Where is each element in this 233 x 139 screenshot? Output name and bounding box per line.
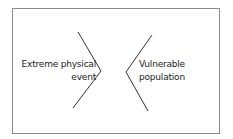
- right-label-line2: population: [139, 71, 185, 84]
- left-label-line2: event: [18, 71, 96, 84]
- vulnerable-population-label: Vulnerable population: [139, 58, 185, 84]
- left-label-line1: Extreme physical: [18, 58, 96, 71]
- extreme-physical-event-label: Extreme physical event: [18, 58, 96, 84]
- right-label-line1: Vulnerable: [139, 58, 185, 71]
